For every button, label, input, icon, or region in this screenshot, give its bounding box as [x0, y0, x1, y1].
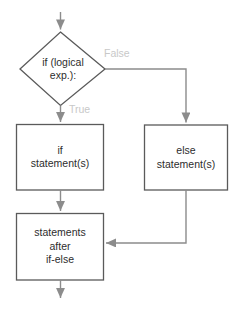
flowchart-diagram: if (logical exp.): if statement(s) else …: [0, 0, 242, 315]
else-branch-box-shape: [145, 125, 228, 190]
edge-else-box-to-merge: [106, 190, 186, 243]
if-branch-box-shape: [17, 125, 104, 191]
flowchart-canvas: [0, 0, 242, 315]
edge-false-to-else-box: [105, 69, 186, 123]
merge-box-shape: [17, 214, 104, 281]
decision-diamond-shape: [20, 32, 105, 106]
